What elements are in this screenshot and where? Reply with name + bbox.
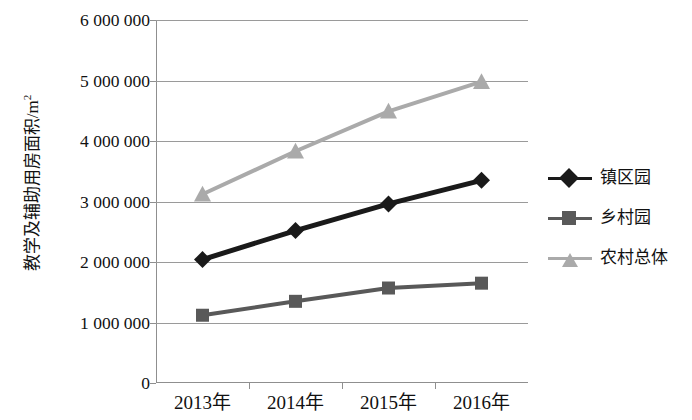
- series-1: [194, 172, 490, 268]
- legend-label: 乡村园: [592, 208, 651, 228]
- legend-item[interactable]: 农村总体: [548, 238, 692, 278]
- x-tick-label: 2015年: [339, 390, 439, 416]
- diamond-marker: [473, 172, 490, 189]
- legend-swatch: [548, 208, 592, 228]
- legend-item[interactable]: 镇区园: [548, 158, 692, 198]
- square-marker: [382, 282, 395, 295]
- x-tick-mark: [249, 383, 250, 389]
- y-tick-label: 5 000 000: [4, 72, 150, 90]
- square-marker: [289, 295, 302, 308]
- square-marker: [475, 277, 488, 290]
- x-tick-mark: [435, 383, 436, 389]
- x-tick-mark: [342, 383, 343, 389]
- legend-diamond-icon: [559, 168, 579, 188]
- legend-label: 农村总体: [592, 248, 668, 268]
- y-tick-label: 4 000 000: [4, 132, 150, 150]
- square-marker: [196, 309, 209, 322]
- series-3: [194, 73, 490, 201]
- series-layer: [156, 20, 528, 383]
- x-tick-label: 2013年: [153, 390, 253, 416]
- legend-label: 镇区园: [592, 168, 651, 188]
- x-axis-tick-labels: 2013年2014年2015年2016年: [156, 390, 528, 418]
- y-tick-label: 3 000 000: [4, 193, 150, 211]
- series-2: [196, 277, 488, 322]
- legend-swatch: [548, 168, 592, 188]
- y-tick-label: 0: [4, 374, 150, 392]
- legend-swatch: [548, 248, 592, 268]
- y-tick-mark: [150, 383, 156, 384]
- x-tick-label: 2014年: [246, 390, 346, 416]
- series-line: [203, 82, 482, 195]
- legend-triangle-icon: [562, 253, 578, 267]
- series-line: [203, 283, 482, 315]
- y-axis-tick-labels: 01 000 0002 000 0003 000 0004 000 0005 0…: [0, 0, 150, 420]
- diamond-marker: [194, 251, 211, 268]
- series-line: [203, 180, 482, 259]
- legend-square-icon: [562, 211, 576, 225]
- legend: 镇区园乡村园农村总体: [548, 158, 692, 278]
- y-tick-label: 6 000 000: [4, 11, 150, 29]
- diamond-marker: [287, 222, 304, 239]
- y-tick-label: 2 000 000: [4, 253, 150, 271]
- x-tick-label: 2016年: [432, 390, 532, 416]
- y-tick-label: 1 000 000: [4, 314, 150, 332]
- legend-item[interactable]: 乡村园: [548, 198, 692, 238]
- plot-area: [156, 20, 528, 383]
- diamond-marker: [380, 195, 397, 212]
- triangle-marker: [473, 73, 490, 89]
- line-chart: 教学及辅助用房面积/m2 01 000 0002 000 0003 000 00…: [0, 0, 692, 420]
